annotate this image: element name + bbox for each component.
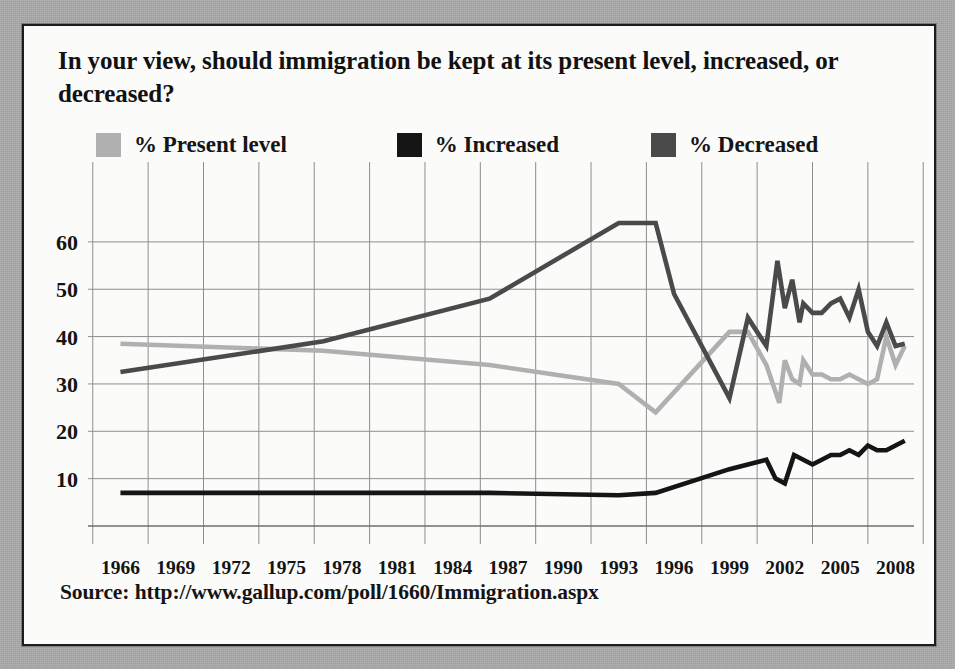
x-axis-tick-label: 1978 xyxy=(322,557,361,578)
x-axis-tick-label: 1990 xyxy=(544,557,583,578)
chart-series-group xyxy=(120,223,904,495)
x-axis-tick-label: 1984 xyxy=(433,557,472,578)
y-axis-tick-label: 30 xyxy=(56,372,78,397)
x-axis-tick-label: 2002 xyxy=(765,557,804,578)
y-axis-tick-label: 60 xyxy=(56,230,78,255)
line-chart: 102030405060 196619691972197519781981198… xyxy=(24,26,938,648)
x-axis-tick-label: 2005 xyxy=(821,557,860,578)
chart-gridlines xyxy=(88,162,923,544)
x-axis-tick-label: 1996 xyxy=(655,557,694,578)
x-axis-tick-labels: 1966196919721975197819811984198719901993… xyxy=(101,557,915,578)
chart-panel: In your view, should immigration be kept… xyxy=(22,24,936,646)
x-axis-tick-label: 1969 xyxy=(156,557,195,578)
x-axis-tick-label: 2008 xyxy=(876,557,915,578)
x-axis-tick-label: 1966 xyxy=(101,557,140,578)
y-axis-tick-label: 20 xyxy=(56,419,78,444)
x-axis-tick-label: 1972 xyxy=(212,557,251,578)
y-axis-tick-label: 40 xyxy=(56,325,78,350)
y-axis-tick-label: 10 xyxy=(56,467,78,492)
x-axis-tick-label: 1975 xyxy=(267,557,306,578)
x-axis-tick-label: 1987 xyxy=(489,557,528,578)
x-axis-tick-label: 1999 xyxy=(710,557,749,578)
y-axis-tick-labels: 102030405060 xyxy=(56,230,78,492)
x-axis-tick-label: 1981 xyxy=(378,557,417,578)
series-line-present-level xyxy=(120,332,904,413)
x-axis-tick-label: 1993 xyxy=(599,557,638,578)
source-citation: Source: http://www.gallup.com/poll/1660/… xyxy=(60,580,599,605)
y-axis-tick-label: 50 xyxy=(56,277,78,302)
series-line-increased xyxy=(120,441,904,495)
plot-area: 102030405060 196619691972197519781981198… xyxy=(24,26,938,648)
